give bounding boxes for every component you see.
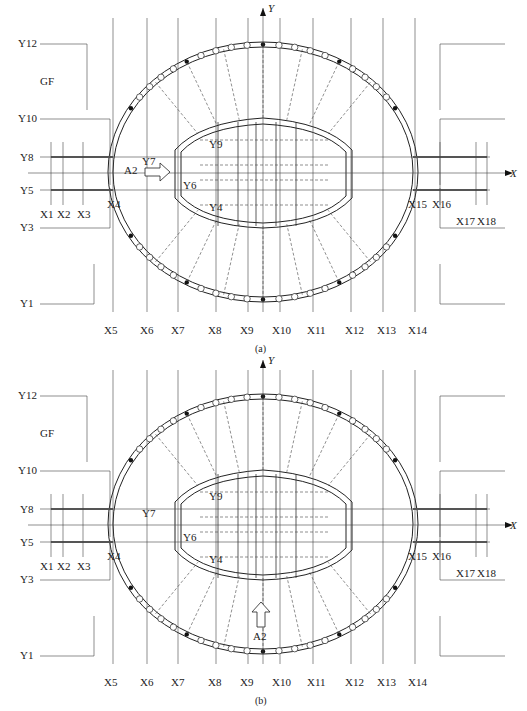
column-node — [185, 411, 189, 415]
label-x2: X2 — [57, 560, 70, 572]
label-y10: Y10 — [18, 112, 37, 124]
opening — [292, 646, 298, 652]
opening — [276, 394, 282, 400]
label-x7: X7 — [171, 676, 185, 688]
label-x14: X14 — [408, 676, 427, 688]
opening — [244, 296, 250, 302]
opening — [373, 435, 379, 441]
label-y10: Y10 — [18, 464, 37, 476]
opening — [228, 396, 234, 402]
column-node — [337, 59, 341, 63]
opening — [349, 272, 355, 278]
radial-beam — [187, 414, 217, 477]
label-x14: X14 — [408, 324, 427, 336]
radial-beam — [287, 224, 303, 295]
opening — [373, 606, 379, 612]
label-x5: X5 — [104, 324, 118, 336]
label-x6: X6 — [140, 676, 154, 688]
label-gf: GF — [40, 427, 54, 439]
column-node — [129, 234, 133, 238]
opening — [292, 44, 298, 50]
opening — [276, 296, 282, 302]
opening — [136, 596, 142, 602]
opening — [322, 52, 328, 58]
leader-line — [440, 44, 505, 110]
radial-beam — [328, 82, 370, 134]
column-node — [185, 632, 189, 636]
label-x9: X9 — [240, 324, 254, 336]
y-axis-label: Y — [268, 2, 276, 14]
label-x12: X12 — [345, 676, 364, 688]
label-x8: X8 — [208, 324, 222, 336]
label-x10: X10 — [272, 676, 291, 688]
label-x17: X17 — [456, 215, 475, 227]
label-y1: Y1 — [20, 649, 33, 661]
radial-beam — [224, 576, 240, 647]
opening — [244, 394, 250, 400]
opening — [158, 74, 164, 80]
label-x4: X4 — [107, 550, 121, 562]
label-y4: Y4 — [209, 553, 223, 565]
label-x12: X12 — [345, 324, 364, 336]
opening — [136, 446, 142, 452]
leader-line — [440, 264, 505, 304]
opening — [146, 435, 152, 441]
radial-beam — [309, 414, 339, 477]
opening — [228, 646, 234, 652]
opening — [146, 606, 152, 612]
opening — [170, 66, 176, 72]
label-x15: X15 — [408, 198, 427, 210]
radial-beam — [156, 434, 198, 486]
opening — [307, 48, 313, 54]
label-x18: X18 — [477, 215, 496, 227]
y-axis-arrow-icon — [260, 360, 266, 368]
column-node — [337, 280, 341, 284]
label-x6: X6 — [140, 324, 154, 336]
radial-beam — [224, 224, 240, 295]
radial-beam — [156, 82, 198, 134]
radial-beam — [328, 562, 370, 614]
x-axis-label: X — [509, 167, 518, 179]
label-y7: Y7 — [142, 155, 156, 167]
label-x11: X11 — [307, 324, 326, 336]
opening — [307, 400, 313, 406]
label-x9: X9 — [240, 676, 254, 688]
radial-beam — [309, 62, 339, 125]
label-x7: X7 — [171, 324, 185, 336]
opening — [383, 446, 389, 452]
radial-beam — [156, 562, 198, 614]
column-node — [185, 59, 189, 63]
label-x2: X2 — [57, 208, 70, 220]
label-y3: Y3 — [20, 221, 34, 233]
opening — [349, 66, 355, 72]
label-y5: Y5 — [20, 184, 34, 196]
opening — [322, 404, 328, 410]
arrow-up-icon — [252, 602, 270, 627]
opening — [383, 94, 389, 100]
opening — [362, 616, 368, 622]
label-x15: X15 — [408, 550, 427, 562]
leader-line — [440, 616, 505, 656]
opening — [198, 637, 204, 643]
radial-beam — [328, 434, 370, 486]
label-x13: X13 — [377, 676, 396, 688]
y-axis-arrow-icon — [260, 8, 266, 16]
opening — [373, 254, 379, 260]
opening — [158, 264, 164, 270]
leader-line — [40, 616, 94, 656]
opening — [198, 52, 204, 58]
opening — [322, 637, 328, 643]
column-node — [337, 411, 341, 415]
leader-line — [40, 471, 110, 537]
opening — [170, 624, 176, 630]
opening — [146, 83, 152, 89]
opening — [198, 285, 204, 291]
opening — [213, 48, 219, 54]
column-node — [129, 106, 133, 110]
inner-ring-inner — [181, 476, 346, 575]
radial-beam — [224, 49, 240, 120]
opening — [276, 648, 282, 654]
opening — [213, 642, 219, 648]
opening — [307, 642, 313, 648]
label-a2: A2 — [124, 164, 137, 176]
